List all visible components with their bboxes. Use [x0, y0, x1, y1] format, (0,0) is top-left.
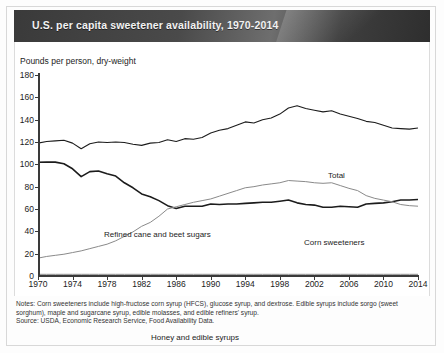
- page-title: U.S. per capita sweetener availability, …: [32, 19, 278, 31]
- y-tick-label: 140: [20, 115, 34, 125]
- y-tick-mark: [35, 187, 38, 188]
- x-axis-line: [38, 275, 419, 277]
- x-tick-mark: [142, 276, 143, 280]
- y-tick-mark: [35, 120, 38, 121]
- notes-block: Notes: Corn sweeteners include high-fruc…: [16, 300, 428, 326]
- x-tick-label: 2010: [374, 279, 393, 289]
- x-tick-mark: [73, 276, 74, 280]
- series-line-refined: [38, 162, 418, 208]
- y-tick-label: 100: [20, 159, 34, 169]
- x-tick-label: 1998: [270, 279, 289, 289]
- x-tick-mark: [107, 276, 108, 280]
- x-tick-mark: [418, 276, 419, 280]
- title-banner: U.S. per capita sweetener availability, …: [14, 10, 430, 42]
- x-tick-label: 1986: [167, 279, 186, 289]
- y-tick-label: 20: [25, 249, 34, 259]
- series-label-refined: Refined cane and beet sugars: [104, 230, 211, 239]
- y-tick-label: 120: [20, 137, 34, 147]
- x-tick-mark: [211, 276, 212, 280]
- y-tick-mark: [35, 209, 38, 210]
- series-label-corn: Corn sweeteners: [304, 238, 364, 247]
- y-tick-label: 60: [25, 204, 34, 214]
- y-tick-mark: [35, 75, 38, 76]
- y-tick-mark: [35, 97, 38, 98]
- series-label-total: Total: [328, 171, 345, 180]
- y-tick-label: 80: [25, 182, 34, 192]
- chart-figure: U.S. per capita sweetener availability, …: [0, 0, 444, 353]
- y-axis-title: Pounds per person, dry-weight: [20, 56, 136, 66]
- source-text: Source: USDA, Economic Research Service,…: [16, 317, 428, 326]
- x-tick-label: 1978: [98, 279, 117, 289]
- x-tick-mark: [280, 276, 281, 280]
- x-tick-mark: [349, 276, 350, 280]
- x-tick-label: 1982: [132, 279, 151, 289]
- series-label-honey: Honey and edible syrups: [151, 333, 239, 342]
- x-tick-mark: [245, 276, 246, 280]
- y-tick-label: 180: [20, 70, 34, 80]
- y-tick-mark: [35, 142, 38, 143]
- y-axis-line: [38, 73, 40, 276]
- y-tick-mark: [35, 164, 38, 165]
- x-tick-mark: [383, 276, 384, 280]
- x-tick-label: 2002: [305, 279, 324, 289]
- plot-area: 020406080100120140160180 197019741978198…: [38, 75, 418, 276]
- x-tick-label: 1974: [63, 279, 82, 289]
- y-tick-label: 160: [20, 92, 34, 102]
- x-tick-label: 2014: [409, 279, 428, 289]
- x-tick-label: 1970: [29, 279, 48, 289]
- y-tick-mark: [35, 231, 38, 232]
- y-tick-label: 40: [25, 226, 34, 236]
- x-tick-mark: [38, 276, 39, 280]
- x-tick-mark: [314, 276, 315, 280]
- y-tick-mark: [35, 254, 38, 255]
- series-line-total: [38, 106, 418, 149]
- x-tick-label: 1994: [236, 279, 255, 289]
- notes-text: Notes: Corn sweeteners include high-fruc…: [16, 300, 428, 317]
- x-tick-mark: [176, 276, 177, 280]
- x-tick-label: 1990: [201, 279, 220, 289]
- x-tick-label: 2006: [339, 279, 358, 289]
